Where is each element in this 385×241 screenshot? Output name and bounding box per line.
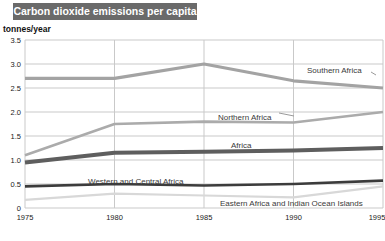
x-tick-label: 1985 bbox=[196, 213, 213, 222]
chart-page: Carbon dioxide emissions per capita tonn… bbox=[0, 0, 385, 241]
x-tick-label: 1975 bbox=[17, 213, 34, 222]
y-tick-label: 0 bbox=[17, 204, 21, 213]
x-tick-label: 1990 bbox=[285, 213, 302, 222]
x-tick-label: 1995 bbox=[369, 213, 385, 222]
y-tick-label: 3.5 bbox=[11, 36, 21, 45]
label-leader-southern-africa bbox=[371, 72, 376, 75]
label-leader-northern-africa bbox=[279, 113, 294, 116]
series-label-africa: Africa bbox=[231, 141, 252, 150]
y-tick-label: 3.0 bbox=[11, 60, 21, 69]
emissions-line-chart: 00.51.01.52.02.53.03.5197519801985199019… bbox=[0, 0, 385, 241]
y-tick-label: 0.5 bbox=[11, 180, 21, 189]
y-tick-label: 1.5 bbox=[11, 132, 21, 141]
y-tick-label: 2.0 bbox=[11, 108, 21, 117]
y-tick-label: 2.5 bbox=[11, 84, 21, 93]
x-tick-label: 1980 bbox=[106, 213, 123, 222]
series-label-northern-africa: Northern Africa bbox=[218, 113, 272, 122]
series-label-western-and-central-africa: Western and Central Africa bbox=[88, 177, 184, 186]
series-label-eastern-africa-and-indian-ocean-islands: Eastern Africa and Indian Ocean Islands bbox=[220, 199, 363, 208]
y-tick-label: 1.0 bbox=[11, 156, 21, 165]
series-label-southern-africa: Southern Africa bbox=[307, 66, 362, 75]
